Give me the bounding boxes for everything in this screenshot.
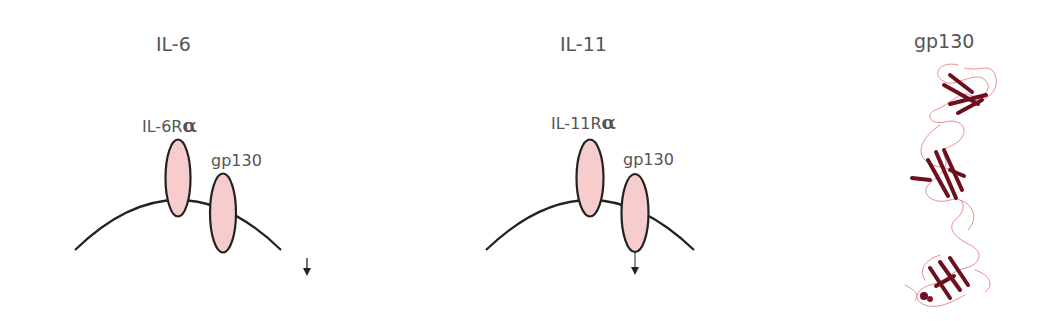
down-arrow-icon xyxy=(303,258,311,276)
il11-gp130-receptor xyxy=(622,174,649,252)
il6-gp130-receptor xyxy=(210,174,236,253)
gp130-ribbon-structure-icon xyxy=(905,64,996,306)
il11r-alpha-receptor xyxy=(577,140,604,217)
down-arrow-icon xyxy=(631,252,639,275)
diagram-graphics xyxy=(0,0,1048,321)
il6r-alpha-receptor xyxy=(166,140,191,217)
